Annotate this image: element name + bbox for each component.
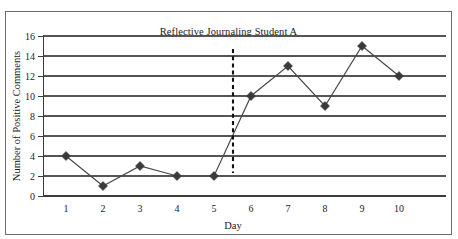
x-tick-label-4: 4 [175,203,180,214]
data-point-day-4 [173,172,182,181]
y-tick-label-10: 10 [25,91,35,102]
gridlines [43,36,446,176]
y-tick-label-14: 14 [25,51,35,62]
x-tick-label-10: 10 [394,203,404,214]
x-tick-label-3: 3 [138,203,143,214]
x-tick-label-5: 5 [212,203,217,214]
y-tick-label-0: 0 [30,191,35,202]
x-tick-label-1: 1 [64,203,69,214]
y-tick-label-2: 2 [30,171,35,182]
y-tick-marks [38,36,43,196]
y-tick-label-6: 6 [30,131,35,142]
y-tick-labels: 16 14 12 10 8 6 4 2 0 [25,31,35,202]
y-tick-label-4: 4 [30,151,35,162]
chart-screenshot: Reflective Journaling Student A [0,0,458,239]
x-tick-label-8: 8 [323,203,328,214]
y-tick-label-8: 8 [30,111,35,122]
data-point-day-3 [136,162,145,171]
line-chart-plot: 16 14 12 10 8 6 4 2 0 1 2 3 4 5 6 7 8 9 … [0,0,458,239]
data-point-day-5 [210,172,219,181]
x-tick-label-6: 6 [249,203,254,214]
x-tick-label-9: 9 [360,203,365,214]
x-tick-label-7: 7 [286,203,291,214]
y-tick-label-16: 16 [25,31,35,42]
y-tick-label-12: 12 [25,71,35,82]
y-axis-title: Number of Positive Comments [11,51,22,181]
x-tick-labels: 1 2 3 4 5 6 7 8 9 10 [64,203,405,214]
x-axis-title: Day [224,220,242,231]
x-tick-label-2: 2 [101,203,106,214]
